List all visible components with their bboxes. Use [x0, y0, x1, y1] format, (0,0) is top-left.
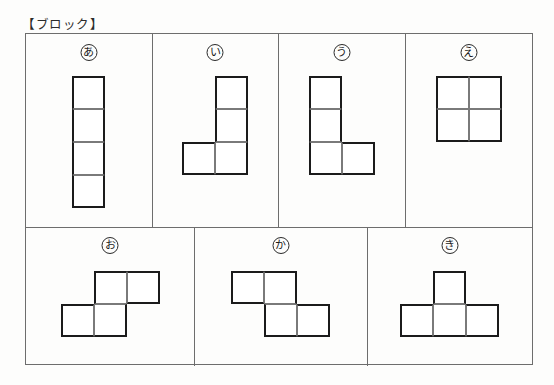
- blocks-row-bottom: お か き: [26, 227, 532, 366]
- block-cell: [309, 142, 342, 175]
- block-cell: [182, 142, 215, 175]
- block-cell-empty: [297, 271, 330, 304]
- page-title: 【ブロック】: [22, 14, 103, 33]
- block-panel-ki[interactable]: き: [368, 228, 532, 366]
- block-cell: [72, 175, 105, 208]
- block-cell: [215, 76, 248, 109]
- worksheet-sheet: 【ブロック】 あ い う え お: [0, 0, 554, 385]
- block-cell: [433, 304, 466, 337]
- block-cell: [72, 142, 105, 175]
- block-cell: [469, 76, 502, 109]
- block-cell: [466, 304, 499, 337]
- block-cell: [94, 304, 127, 337]
- block-cell: [215, 109, 248, 142]
- block-label-o: お: [102, 237, 119, 254]
- block-cell: [264, 271, 297, 304]
- block-label-i: い: [207, 44, 224, 61]
- block-shape-e: [436, 76, 502, 142]
- block-cell: [94, 271, 127, 304]
- block-cell: [433, 271, 466, 304]
- block-cell-empty: [342, 76, 375, 109]
- block-shape-o: [61, 271, 160, 337]
- block-cell-empty: [182, 76, 215, 109]
- blocks-row-top: あ い う え: [26, 34, 532, 227]
- block-label-e: え: [460, 44, 477, 61]
- block-cell: [61, 304, 94, 337]
- block-cell: [127, 271, 160, 304]
- block-panel-e[interactable]: え: [406, 34, 533, 227]
- block-label-u: う: [333, 44, 350, 61]
- block-panel-ka[interactable]: か: [195, 228, 368, 366]
- block-cell-empty: [127, 304, 160, 337]
- block-cell-empty: [466, 271, 499, 304]
- block-panel-i[interactable]: い: [153, 34, 280, 227]
- block-cell: [264, 304, 297, 337]
- block-shape-ka: [231, 271, 330, 337]
- block-cell: [309, 109, 342, 142]
- block-shape-a: [72, 76, 105, 208]
- block-cell: [436, 76, 469, 109]
- block-cell: [231, 271, 264, 304]
- block-cell: [72, 109, 105, 142]
- block-panel-o[interactable]: お: [26, 228, 195, 366]
- block-shape-u: [309, 76, 375, 175]
- block-cell-empty: [182, 109, 215, 142]
- block-label-a: あ: [80, 44, 97, 61]
- block-panel-u[interactable]: う: [279, 34, 406, 227]
- block-cell: [215, 142, 248, 175]
- blocks-frame: あ い う え お か: [25, 33, 533, 365]
- block-label-ki: き: [441, 237, 458, 254]
- block-cell: [342, 142, 375, 175]
- block-cell: [72, 76, 105, 109]
- block-label-ka: か: [272, 237, 289, 254]
- block-cell: [436, 109, 469, 142]
- block-cell-empty: [61, 271, 94, 304]
- block-cell-empty: [342, 109, 375, 142]
- block-cell: [400, 304, 433, 337]
- block-cell: [309, 76, 342, 109]
- block-shape-ki: [400, 271, 499, 337]
- block-cell-empty: [400, 271, 433, 304]
- block-cell-empty: [231, 304, 264, 337]
- block-panel-a[interactable]: あ: [26, 34, 153, 227]
- block-cell: [469, 109, 502, 142]
- block-shape-i: [182, 76, 248, 175]
- block-cell: [297, 304, 330, 337]
